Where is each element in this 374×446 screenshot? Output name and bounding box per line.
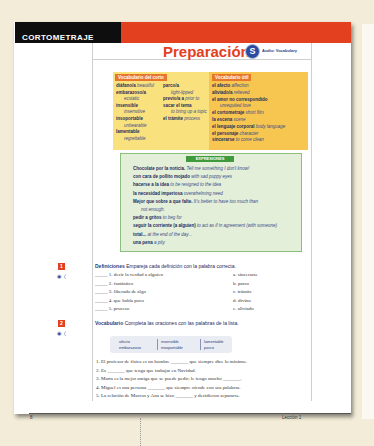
vocab-entry: sacar el tema: [163, 103, 192, 109]
meaning: to beg for: [163, 215, 182, 220]
definition-item[interactable]: _____ 4. que habla poco: [95, 298, 144, 303]
fill-blank-sentence[interactable]: 5. La relación de Marcos y Ana se hizo _…: [96, 393, 240, 398]
vocab-entry: diáfano/a beautiful: [116, 83, 154, 89]
expression-entry: seguir la corriente (a alguien) to act a…: [133, 223, 277, 229]
meaning: short film: [246, 110, 264, 115]
word-bank-column: insensibleinsoportable: [157, 339, 183, 350]
vocab-util-entry: la escena scene: [212, 117, 246, 123]
term: el afecto: [212, 83, 230, 88]
vocab-util-entry: sincerarse to come clean: [212, 137, 264, 143]
meaning: to act as if in agreement (with someone): [197, 223, 277, 228]
vocab-entry: parco/a: [163, 83, 179, 89]
fill-blank-sentence[interactable]: 2. Es _______ que tenga que trabajar en …: [96, 368, 196, 373]
meaning: unbearable: [124, 123, 147, 128]
fill-blank-sentence[interactable]: 3. Marta es la mejor amiga que se puede …: [96, 376, 242, 381]
meaning: beautiful: [137, 83, 154, 88]
fill-blank-sentence[interactable]: 1. El profesor de física es un hombre __…: [96, 359, 247, 364]
meaning: not enough.: [141, 207, 165, 212]
vocab-entry: to bring up a topic: [171, 109, 207, 115]
vocab-corto-heading: Vocabulario del corto: [115, 74, 167, 81]
exercise-2-heading: Vocabulario Completa las oraciones con l…: [95, 320, 239, 326]
term: la necesidad imperiosa: [133, 191, 183, 196]
meaning: Tell me something I don't know!: [187, 166, 250, 171]
term: parco/a: [163, 83, 179, 88]
exercise-1-title: Definiciones: [95, 263, 125, 269]
word-bank-word: embarazoso: [119, 345, 141, 351]
footer-divider: [29, 413, 351, 414]
term: el amor no correspondido: [212, 97, 268, 102]
audio-icon[interactable]: S: [245, 44, 260, 59]
answer-option: e. aliviado: [233, 306, 254, 311]
term: total...: [133, 232, 146, 237]
term: seguir la corriente (a alguien): [133, 223, 196, 228]
term: Chocolate por la noticia.: [133, 166, 185, 171]
meaning: to bring up a topic: [171, 109, 207, 114]
term: pedir a gritos: [133, 215, 162, 220]
expression-entry: total... at the end of the day...: [133, 232, 192, 238]
vocab-util-entry: el afecto affection: [212, 83, 249, 89]
audio-cd-icon[interactable]: ◉〈: [57, 330, 67, 336]
definition-item[interactable]: _____ 3. liberado de algo: [95, 289, 146, 294]
meaning: to come clean: [236, 137, 264, 142]
meaning: at the end of the day...: [148, 232, 192, 237]
vocab-entry: unbearable: [124, 123, 147, 129]
audio-cd-icon[interactable]: ◉〈: [57, 273, 67, 279]
meaning: insensitive: [124, 109, 145, 114]
meaning: a pity: [154, 240, 165, 245]
definition-item[interactable]: _____ 1. decir la verdad a alguien: [95, 272, 163, 277]
word-bank-word: parco: [204, 345, 224, 351]
meaning: body language: [256, 124, 286, 129]
term: Mejor que sobre a que falte.: [133, 199, 193, 204]
term: el trámite: [163, 116, 183, 121]
term: el lenguaje corporal: [212, 124, 255, 129]
expressions-heading: EXPRESIONES: [186, 156, 234, 162]
page-number: 8: [30, 415, 33, 420]
expression-entry: not enough.: [141, 207, 165, 213]
definition-item[interactable]: _____ 5. proceso: [95, 306, 129, 311]
term: sincerarse: [212, 137, 235, 142]
meaning: It's better to have too much than: [194, 199, 258, 204]
expression-entry: pedir a gritos to beg for: [133, 215, 182, 221]
page-title: Preparación: [163, 43, 250, 60]
term: el personaje: [212, 131, 238, 136]
term: con cara de pollito mojado: [133, 174, 190, 179]
term: previo/a a: [163, 96, 184, 101]
expression-entry: con cara de pollito mojado with sad pupp…: [133, 174, 232, 180]
meaning: process: [184, 116, 200, 121]
term: sacar el tema: [163, 103, 192, 108]
definition-item[interactable]: _____ 2. fantástico: [95, 281, 133, 286]
meaning: unrequited love: [220, 103, 251, 108]
vocab-util-entry: aliviado/a relieved: [212, 90, 250, 96]
vocab-entry: regrettable: [124, 136, 146, 142]
fill-blank-sentence[interactable]: 4. Miguel es una persona _______ que sie…: [96, 385, 241, 390]
vocab-entry: previo/a a prior to: [163, 96, 199, 102]
audio-vocabulary-link[interactable]: Audio: Vocabulary: [262, 48, 297, 53]
vocab-util-entry: unrequited love: [220, 103, 251, 109]
exercise-2-instruction: Completa las oraciones con las palabras …: [125, 320, 239, 326]
answer-option: a. sincerarse: [233, 272, 258, 277]
vocab-entry: tight-lipped: [171, 90, 193, 96]
term: la escena: [212, 117, 232, 122]
header-bar: [121, 22, 351, 43]
exercise-1-number: 1: [58, 263, 65, 270]
exercise-1-instruction: Empareja cada definición con la palabra …: [126, 263, 236, 269]
vocab-entry: insensible: [116, 103, 138, 109]
meaning: prior to: [185, 96, 199, 101]
section-label: CORTOMETRAJE: [22, 33, 94, 42]
term: una pena: [133, 240, 153, 245]
vocab-entry: el trámite process: [163, 116, 200, 122]
expression-entry: Mejor que sobre a que falte. It's better…: [133, 199, 258, 205]
word-bank-column: lamentableparco: [200, 339, 224, 350]
meaning: scene: [234, 117, 246, 122]
vocab-util-entry: el lenguaje corporal body language: [212, 124, 285, 130]
word-bank-word: lamentable: [204, 339, 224, 345]
meaning: overwhelming need: [184, 191, 223, 196]
meaning: affection: [232, 83, 249, 88]
vocab-util-entry: el amor no correspondido: [212, 97, 268, 103]
word-bank-word: insoportable: [161, 345, 183, 351]
meaning: regrettable: [124, 136, 146, 141]
vocab-entry: lamentable: [116, 129, 140, 135]
lesson-label: Lección 1: [282, 415, 301, 420]
expression-entry: Chocolate por la noticia. Tell me someth…: [133, 166, 249, 172]
expression-entry: hacerse a la idea to be resigned to the …: [133, 182, 221, 188]
